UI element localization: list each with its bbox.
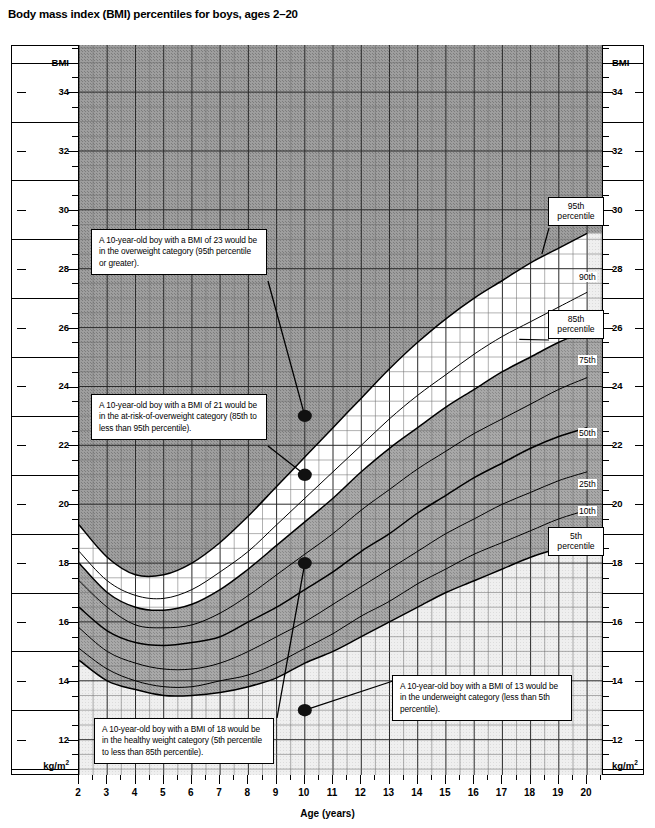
x-axis-tick-17: 17 xyxy=(496,787,507,798)
x-tick xyxy=(431,775,432,780)
y-tick xyxy=(72,254,78,255)
x-axis-tick-4: 4 xyxy=(132,787,138,798)
x-axis-tick-3: 3 xyxy=(103,787,109,798)
x-tick xyxy=(572,775,573,780)
y-axis-separator-left xyxy=(11,710,78,711)
x-tick xyxy=(374,775,375,780)
axis-tick-dash xyxy=(17,269,26,270)
y-axis-separator-right xyxy=(603,239,644,240)
y-tick xyxy=(603,431,609,432)
x-tick xyxy=(163,775,164,784)
y-tick xyxy=(72,519,78,520)
y-axis-separator-right xyxy=(603,63,644,64)
x-axis-tick-13: 13 xyxy=(383,787,394,798)
y-tick xyxy=(68,504,78,505)
y-tick xyxy=(72,460,78,461)
y-tick xyxy=(72,666,78,667)
percentile-label-95-line2: percentile xyxy=(553,211,599,221)
y-tick xyxy=(68,563,78,564)
y-axis-tick-right-20: 20 xyxy=(612,498,623,509)
y-tick xyxy=(68,151,78,152)
y-tick xyxy=(68,681,78,682)
y-tick xyxy=(603,151,613,152)
axis-tick-dash xyxy=(635,386,644,387)
y-tick xyxy=(603,342,609,343)
y-axis-separator-right xyxy=(603,298,644,299)
x-axis-tick-14: 14 xyxy=(411,787,422,798)
axis-tick-dash xyxy=(635,92,644,93)
axis-tick-dash xyxy=(17,328,26,329)
x-tick xyxy=(360,775,361,784)
y-tick xyxy=(603,725,609,726)
y-tick xyxy=(603,387,613,388)
y-tick xyxy=(68,387,78,388)
x-tick xyxy=(92,775,93,780)
y-tick-rail-left xyxy=(68,45,78,775)
y-axis-separator-right xyxy=(603,475,644,476)
y-axis-separator-left xyxy=(11,534,78,535)
y-axis-tick-right-18: 18 xyxy=(612,557,623,568)
x-axis-tick-8: 8 xyxy=(245,787,251,798)
y-tick xyxy=(72,607,78,608)
y-tick xyxy=(603,504,613,505)
axis-tick-dash xyxy=(17,681,26,682)
x-tick xyxy=(346,775,347,780)
percentile-label-25: 25th xyxy=(578,479,597,489)
y-axis-tick-right-14: 14 xyxy=(612,675,623,686)
y-axis-separator-left xyxy=(11,122,78,123)
x-axis-tick-11: 11 xyxy=(327,787,338,798)
axis-tick-dash xyxy=(17,622,26,623)
callout-at-risk-of-overweight: A 10-year-old boy with a BMI of 21 would… xyxy=(91,394,267,440)
x-tick xyxy=(558,775,559,784)
y-axis-separator-right xyxy=(603,769,644,770)
y-tick xyxy=(603,666,609,667)
x-axis-tick-12: 12 xyxy=(355,787,366,798)
callout-healthy-weight: A 10-year-old boy with a BMI of 18 would… xyxy=(94,718,274,764)
x-tick xyxy=(276,775,277,784)
y-tick xyxy=(603,740,613,741)
y-axis-separator-right xyxy=(603,416,644,417)
x-tick xyxy=(586,775,587,784)
y-axis-separator-left xyxy=(11,239,78,240)
y-tick xyxy=(603,166,609,167)
x-axis-tick-9: 9 xyxy=(273,787,279,798)
x-tick xyxy=(191,775,192,784)
x-tick xyxy=(318,775,319,780)
y-tick xyxy=(72,48,78,49)
y-axis-separator-right xyxy=(603,651,644,652)
axis-tick-dash xyxy=(635,563,644,564)
y-tick xyxy=(72,342,78,343)
y-axis-tick-right-12: 12 xyxy=(612,734,623,745)
percentile-label-95-line1: 95th xyxy=(553,201,599,211)
y-axis-tick-right-26: 26 xyxy=(612,322,623,333)
y-tick xyxy=(68,622,78,623)
axis-tick-dash xyxy=(635,210,644,211)
x-tick xyxy=(516,775,517,780)
y-tick xyxy=(72,725,78,726)
y-tick xyxy=(603,92,613,93)
x-axis-tick-5: 5 xyxy=(160,787,166,798)
y-tick xyxy=(603,48,609,49)
y-tick xyxy=(68,92,78,93)
y-axis-tick-right-32: 32 xyxy=(612,145,623,156)
y-tick xyxy=(68,445,78,446)
y-tick xyxy=(603,754,609,755)
y-tick xyxy=(603,445,613,446)
y-tick xyxy=(603,460,609,461)
y-tick xyxy=(603,269,613,270)
percentile-label-5-line1: 5th xyxy=(553,531,599,541)
x-tick xyxy=(530,775,531,784)
axis-tick-dash xyxy=(635,328,644,329)
percentile-label-5: 5th percentile xyxy=(548,527,604,556)
y-tick xyxy=(603,578,609,579)
y-tick xyxy=(72,372,78,373)
y-axis-separator-right xyxy=(603,357,644,358)
x-tick xyxy=(445,775,446,784)
x-tick xyxy=(120,775,121,780)
axis-tick-dash xyxy=(635,269,644,270)
x-tick-rail xyxy=(78,775,603,785)
y-tick xyxy=(603,77,609,78)
x-tick xyxy=(332,775,333,784)
x-tick xyxy=(487,775,488,780)
axis-tick-dash xyxy=(635,445,644,446)
